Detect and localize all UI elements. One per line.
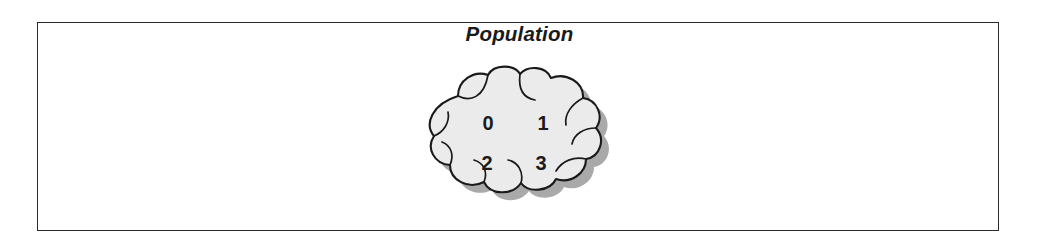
cloud-element-1: 1	[532, 113, 554, 133]
page-title: Population	[0, 24, 1039, 45]
cloud-element-0: 0	[477, 113, 499, 133]
population-cloud: 0 1 2 3	[414, 62, 620, 212]
cloud-element-2: 2	[476, 153, 498, 173]
cloud-shape-icon	[414, 62, 620, 212]
figure-canvas: Population 0 1 2 3	[0, 0, 1039, 249]
cloud-element-3: 3	[530, 153, 552, 173]
